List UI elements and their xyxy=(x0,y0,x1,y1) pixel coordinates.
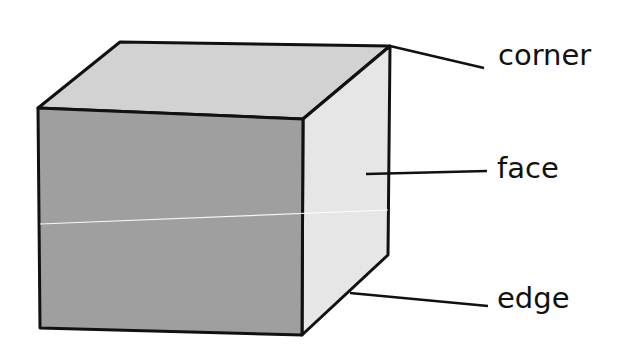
corner-leader-line xyxy=(390,46,484,68)
edge-leader-line xyxy=(350,293,488,306)
corner-label: corner xyxy=(498,41,591,70)
cube-front-face xyxy=(38,108,303,335)
face-label: face xyxy=(497,154,559,183)
edge-label: edge xyxy=(497,284,570,313)
